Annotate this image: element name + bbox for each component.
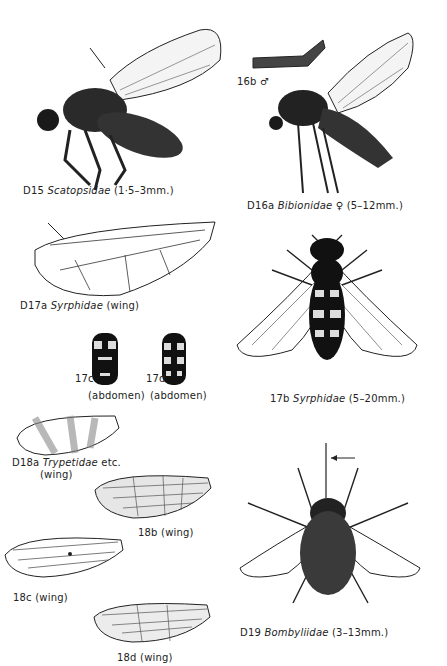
figure-label-d15: D15 Scatopsidae (1·5–3mm.) [23, 185, 174, 196]
figure-label-d18a: D18a Trypetidae etc. [12, 457, 121, 468]
figure-label-17b: 17b Syrphidae (5–20mm.) [270, 393, 405, 404]
figure-label-17d-note: (abdomen) [150, 390, 207, 401]
figure-label-d16a: D16a Bibionidae ♀ (5–12mm.) [247, 200, 403, 211]
figure-label-d18a-note: (wing) [40, 469, 73, 480]
figure-label-d19: D19 Bombyliidae (3–13mm.) [240, 627, 388, 638]
figure-label-d17a: D17a Syrphidae (wing) [20, 300, 139, 311]
figure-label-18d: 18d (wing) [117, 652, 173, 663]
bibionidae-illustration [268, 28, 418, 198]
wing-18c-illustration [3, 530, 123, 578]
figure-label-16b: 16b ♂ [237, 76, 269, 87]
wing-18b-illustration [93, 468, 213, 520]
syrphidae-wing-illustration [30, 220, 215, 300]
figure-label-18b: 18b (wing) [138, 527, 194, 538]
figure-label-17c: 17c [75, 373, 94, 384]
scatopsidae-illustration [30, 20, 200, 185]
figure-label-17d: 17d [146, 373, 166, 384]
figure-label-17c-note: (abdomen) [88, 390, 145, 401]
syrphidae-illustration [232, 235, 422, 365]
trypetidae-wing-illustration [15, 413, 120, 455]
wing-18d-illustration [92, 597, 212, 642]
bombyliidae-illustration [238, 443, 423, 613]
figure-label-18c: 18c (wing) [13, 592, 68, 603]
syrphidae-abdomen-17c-illustration [92, 333, 118, 385]
